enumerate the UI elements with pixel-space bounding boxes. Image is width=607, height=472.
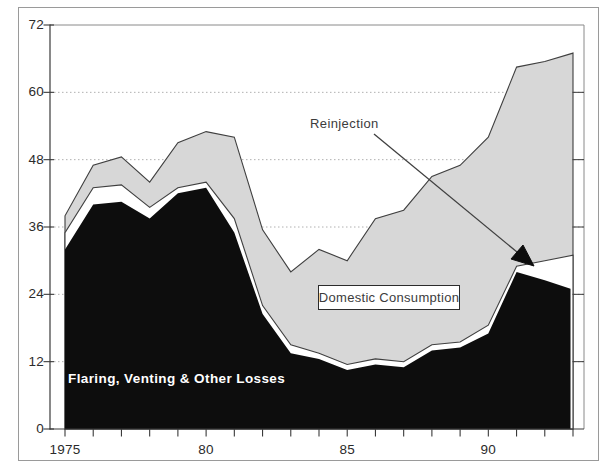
figure: 0122436486072 1975808590 Reinjection Dom… [0,0,607,472]
stacked-area-chart [0,0,607,472]
y-tick-label-24: 24 [14,286,44,301]
y-tick-label-60: 60 [14,84,44,99]
domestic-consumption-label-box: Domestic Consumption [318,285,460,310]
flaring-label: Flaring, Venting & Other Losses [68,371,285,386]
y-tick-label-72: 72 [14,17,44,32]
x-tick-label-80: 80 [198,442,214,457]
y-tick-label-48: 48 [14,152,44,167]
reinjection-label: Reinjection [310,116,379,131]
x-tick-label-90: 90 [481,442,497,457]
y-tick-label-36: 36 [14,219,44,234]
y-tick-label-0: 0 [14,421,44,436]
domestic-consumption-label: Domestic Consumption [319,290,459,305]
x-tick-label-1975: 1975 [49,442,80,457]
x-tick-label-85: 85 [339,442,355,457]
y-tick-label-12: 12 [14,354,44,369]
